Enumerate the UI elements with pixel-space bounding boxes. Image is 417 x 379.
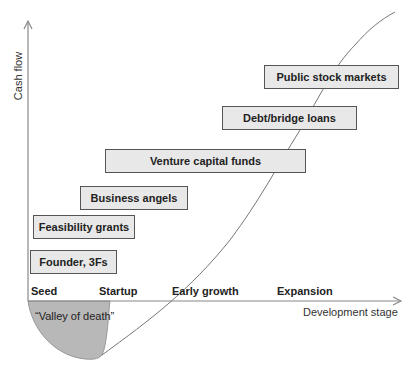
stage-label-seed: Seed [31,285,57,297]
funding-box-venture-capital: Venture capital funds [105,149,306,173]
cash-flow-curve [102,12,395,355]
valley-of-death-label: “Valley of death” [35,310,114,322]
funding-box-feasibility-grants: Feasibility grants [33,215,135,239]
diagram-canvas [0,0,417,379]
funding-box-business-angels: Business angels [80,186,188,210]
stage-label-early-growth: Early growth [172,285,239,297]
funding-box-founder: Founder, 3Fs [30,250,117,274]
funding-box-public-stock-markets: Public stock markets [264,65,399,89]
y-axis-label: Cash flow [12,46,24,106]
funding-box-debt-bridge-loans: Debt/bridge loans [222,106,357,130]
x-axis-label: Development stage [303,306,398,318]
stage-label-expansion: Expansion [277,285,333,297]
stage-label-startup: Startup [99,285,138,297]
